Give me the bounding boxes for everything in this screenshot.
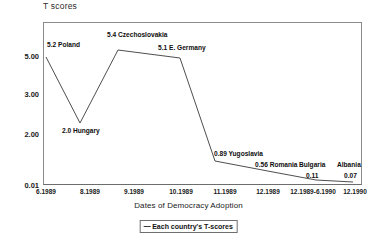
point-label-bulgaria: Bulgaria <box>299 161 325 168</box>
point-label-poland: 5.2 Poland <box>47 41 80 48</box>
line-chart: T scores 5.00 3.00 2.00 0.01 5.2 Poland … <box>0 0 377 237</box>
point-value-bulgaria: 0.11 <box>306 172 318 179</box>
chart-legend: Each country's T-scores <box>139 220 238 233</box>
x-axis-title: Dates of Democracy Adoption <box>0 201 377 210</box>
x-tick-label: 10.1989 <box>169 188 193 195</box>
x-tick-label: 6.1989 <box>36 188 56 195</box>
legend-label: Each country's T-scores <box>152 222 233 231</box>
x-tick-label: 12.1989 <box>256 188 280 195</box>
x-tick-label: 11.1989 <box>213 188 236 195</box>
point-label-albania: Albania <box>337 161 361 168</box>
x-tick-label: 12.1989-6.1990 <box>290 188 336 195</box>
x-tick-label: 12.1990 <box>343 188 367 195</box>
legend-line-swatch-icon <box>143 226 150 227</box>
x-tick-label: 9.1989 <box>124 188 144 195</box>
point-label-romania: 0.56 Romania <box>255 161 298 168</box>
x-axis-tick-labels: 6.1989 8.1989 9.1989 10.1989 11.1989 12.… <box>0 188 377 202</box>
point-label-e-germany: 5.1 E. Germany <box>158 44 206 51</box>
point-value-albania: 0.07 <box>344 172 357 179</box>
point-label-hungary: 2.0 Hungary <box>62 127 100 134</box>
x-tick-label: 8.1989 <box>80 188 100 195</box>
point-label-czechoslovakia: 5.4 Czechoslovakia <box>107 31 167 38</box>
point-label-yugoslavia: 0.89 Yugoslavia <box>214 150 263 157</box>
